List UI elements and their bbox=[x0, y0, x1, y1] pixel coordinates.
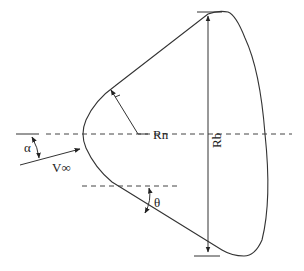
base-radius-label: Rb bbox=[209, 133, 224, 148]
nose-radius-tick bbox=[115, 95, 120, 97]
freestream-velocity-label: V∞ bbox=[52, 160, 71, 175]
cone-angle-label: θ bbox=[154, 195, 160, 210]
angle-of-attack-arc bbox=[32, 137, 39, 158]
angle-of-attack-label: α bbox=[24, 140, 31, 155]
nose-radius-label: Rn bbox=[153, 127, 169, 142]
capsule-diagram: Rb Rn V∞ α θ bbox=[0, 0, 304, 271]
cone-angle-arc bbox=[145, 188, 150, 213]
